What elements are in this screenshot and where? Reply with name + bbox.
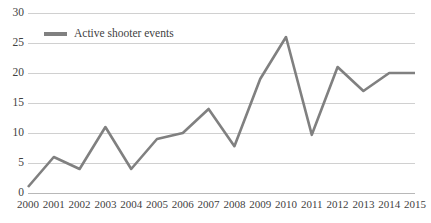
y-axis-tick-label: 10 — [0, 127, 24, 139]
x-axis-tick-label: 2012 — [327, 199, 349, 210]
chart-legend: Active shooter events — [44, 28, 174, 40]
x-axis-tick-label: 2010 — [275, 199, 297, 210]
y-axis-tick-label: 5 — [0, 157, 24, 169]
data-line — [28, 37, 415, 187]
x-axis-tick-label: 2005 — [146, 199, 168, 210]
y-axis-tick-label: 25 — [0, 37, 24, 49]
x-axis-tick-label: 2009 — [249, 199, 271, 210]
y-axis-tick-label: 30 — [0, 7, 24, 19]
y-axis-tick-label: 15 — [0, 97, 24, 109]
x-axis-tick-label: 2015 — [404, 199, 426, 210]
x-axis-tick-label: 2004 — [120, 199, 142, 210]
x-axis: 2000200120022003200420052006200720082009… — [28, 199, 415, 219]
y-axis: 302520151050 — [0, 0, 24, 223]
line-chart: 302520151050 Active shooter events 20002… — [0, 0, 431, 223]
x-axis-tick-label: 2001 — [43, 199, 65, 210]
x-axis-tick-label: 2011 — [301, 199, 323, 210]
x-axis-tick-label: 2014 — [378, 199, 400, 210]
x-axis-tick-label: 2000 — [17, 199, 39, 210]
x-axis-tick-label: 2008 — [223, 199, 245, 210]
x-axis-tick-label: 2003 — [94, 199, 116, 210]
x-axis-tick-label: 2002 — [69, 199, 91, 210]
x-axis-tick-label: 2006 — [172, 199, 194, 210]
x-axis-tick-label: 2013 — [352, 199, 374, 210]
x-axis-tick-label: 2007 — [198, 199, 220, 210]
legend-label: Active shooter events — [74, 28, 174, 40]
legend-swatch-icon — [44, 32, 67, 36]
y-axis-tick-label: 20 — [0, 67, 24, 79]
